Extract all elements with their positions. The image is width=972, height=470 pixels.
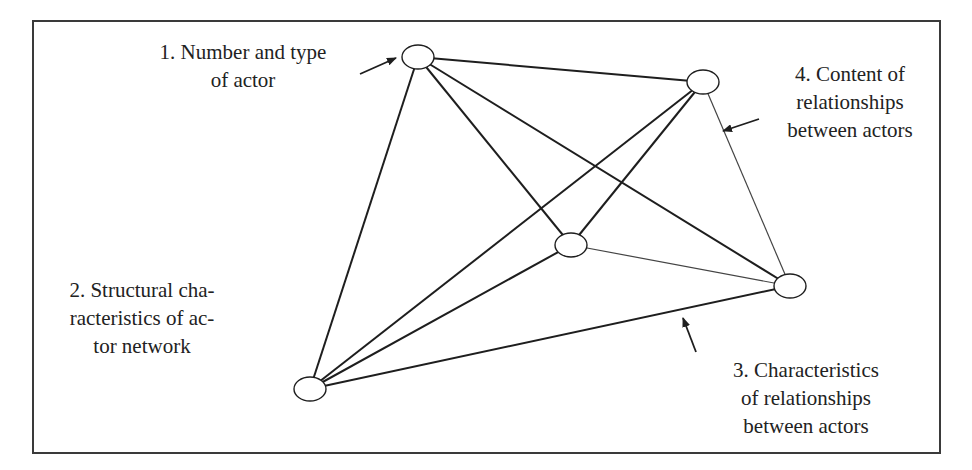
label3-line1: 3. Characteristics xyxy=(696,356,916,384)
actor-node-nc xyxy=(555,233,587,257)
actor-node-n2 xyxy=(294,377,326,401)
label-characteristics-of-relationships: 3. Characteristics of relationships betw… xyxy=(696,356,916,440)
label2-line1: 2. Structural cha- xyxy=(42,276,242,304)
label3-line3: between actors xyxy=(696,412,916,440)
arrow-4-icon xyxy=(723,119,759,131)
arrow-3-icon xyxy=(683,318,696,352)
arrow-1-icon xyxy=(360,58,396,74)
label1-line1: 1. Number and type xyxy=(128,38,358,66)
annotation-arrows xyxy=(360,58,759,352)
label-number-and-type-of-actor: 1. Number and type of actor xyxy=(128,38,358,94)
actor-nodes xyxy=(294,45,806,401)
edge-n1-nc xyxy=(418,57,571,245)
label1-line2: of actor xyxy=(128,66,358,94)
actor-node-n1 xyxy=(402,45,434,69)
label-content-of-relationships: 4. Content of relationships between acto… xyxy=(760,60,940,144)
label2-line3: tor network xyxy=(42,332,242,360)
label4-line2: relationships xyxy=(760,88,940,116)
label4-line1: 4. Content of xyxy=(760,60,940,88)
actor-node-n5 xyxy=(774,274,806,298)
actor-node-n4 xyxy=(687,70,719,94)
label4-line3: between actors xyxy=(760,116,940,144)
actor-network-diagram: 1. Number and type of actor 2. Structura… xyxy=(0,0,972,470)
edge-n1-n4 xyxy=(418,57,703,82)
label2-line2: racteristics of ac- xyxy=(42,304,242,332)
label-structural-characteristics: 2. Structural cha- racteristics of ac- t… xyxy=(42,276,242,360)
relationship-edges xyxy=(310,57,790,389)
label3-line2: of relationships xyxy=(696,384,916,412)
edge-n4-n2 xyxy=(310,82,703,389)
